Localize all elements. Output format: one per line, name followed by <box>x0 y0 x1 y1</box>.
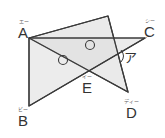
vertex-label-a: A <box>18 25 28 40</box>
vertex-label-e: E <box>82 80 92 95</box>
vertex-label-d: D <box>126 105 137 120</box>
angle-label-a: ア <box>124 51 137 64</box>
vertex-label-c: C <box>144 24 155 39</box>
vertex-label-b: B <box>18 113 28 128</box>
